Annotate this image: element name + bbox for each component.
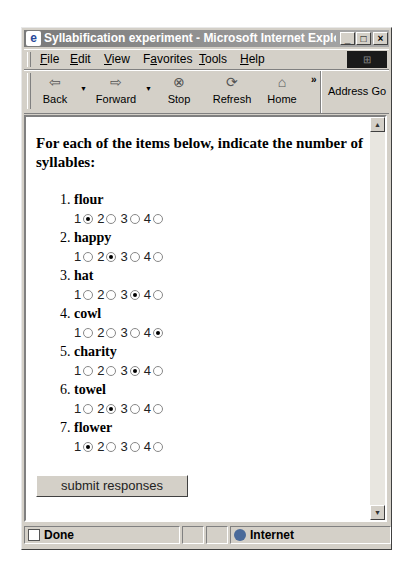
menu-view[interactable]: View [104,52,130,66]
word-label: flower [74,420,112,435]
radio-button[interactable] [83,328,93,338]
radio-button[interactable] [106,290,116,300]
minimize-button[interactable]: _ [340,32,355,45]
menu-help[interactable]: Help [240,52,265,66]
syllable-option[interactable]: 4 [144,399,163,418]
radio-button[interactable] [130,442,140,452]
scroll-down-icon[interactable]: ▼ [370,505,385,520]
word-item: flour1234 [74,190,363,228]
option-number: 2 [97,363,104,378]
radio-button[interactable] [130,252,140,262]
home-button[interactable]: ⌂ Home [262,73,302,105]
radio-button[interactable] [130,214,140,224]
menubar-grip[interactable] [27,52,31,67]
syllable-option[interactable]: 2 [97,323,116,342]
stop-button[interactable]: ⊗ Stop [160,73,198,105]
syllable-option[interactable]: 4 [144,361,163,380]
syllable-option[interactable]: 4 [144,247,163,266]
word-label: charity [74,344,117,359]
word-list: flour1234happy1234hat1234cowl1234charity… [36,190,363,456]
syllable-options: 1234 [74,437,363,456]
syllable-option[interactable]: 2 [97,285,116,304]
radio-button[interactable] [130,404,140,414]
back-button[interactable]: ⇦ Back [38,73,72,105]
radio-button[interactable] [153,404,163,414]
forward-button[interactable]: ⇨ Forward [92,73,140,105]
radio-button[interactable] [153,290,163,300]
toolbar-overflow-chevron-icon[interactable]: » [311,74,317,85]
back-dropdown-icon[interactable]: ▼ [80,85,87,92]
option-number: 4 [144,325,151,340]
syllable-option[interactable]: 3 [120,209,139,228]
syllable-option[interactable]: 4 [144,437,163,456]
syllable-option[interactable]: 1 [74,285,93,304]
syllable-form: For each of the items below, indicate th… [36,134,363,456]
syllable-option[interactable]: 4 [144,209,163,228]
radio-button[interactable] [153,366,163,376]
radio-button[interactable] [83,290,93,300]
radio-button[interactable] [153,252,163,262]
syllable-option[interactable]: 1 [74,209,93,228]
syllable-option[interactable]: 4 [144,323,163,342]
syllable-option[interactable]: 2 [97,209,116,228]
syllable-option[interactable]: 3 [120,323,139,342]
radio-button[interactable] [83,404,93,414]
syllable-option[interactable]: 1 [74,247,93,266]
radio-button[interactable] [106,442,116,452]
radio-button[interactable] [106,404,116,414]
menu-tools[interactable]: Tools [199,52,227,66]
vertical-scrollbar[interactable]: ▲ ▼ [370,117,385,520]
toolbar-grip[interactable] [27,73,31,109]
menu-edit[interactable]: Edit [70,52,91,66]
refresh-button[interactable]: ⟳ Refresh [210,73,254,105]
toolbar: ⇦ Back ▼ ⇨ Forward ▼ ⊗ Stop ⟳ Refresh ⌂ … [24,70,389,114]
option-number: 4 [144,211,151,226]
radio-button[interactable] [106,328,116,338]
forward-dropdown-icon[interactable]: ▼ [145,85,152,92]
syllable-option[interactable]: 4 [144,285,163,304]
menu-favorites[interactable]: Favorites [143,52,192,66]
status-bar: Done Internet [24,525,389,545]
word-label: towel [74,382,106,397]
radio-button[interactable] [153,442,163,452]
syllable-option[interactable]: 3 [120,399,139,418]
word-item: cowl1234 [74,304,363,342]
syllable-option[interactable]: 3 [120,247,139,266]
windows-logo-icon: ⊞ [347,51,387,68]
scroll-up-icon[interactable]: ▲ [370,117,385,132]
syllable-option[interactable]: 1 [74,399,93,418]
syllable-option[interactable]: 3 [120,361,139,380]
syllable-options: 1234 [74,209,363,228]
radio-button[interactable] [153,328,163,338]
title-bar[interactable]: e Syllabification experiment - Microsoft… [24,30,389,47]
radio-button[interactable] [83,442,93,452]
radio-button[interactable] [83,366,93,376]
syllable-option[interactable]: 2 [97,437,116,456]
maximize-button[interactable]: □ [356,32,371,45]
address-bar[interactable]: Address Go [320,71,389,113]
option-number: 3 [120,401,127,416]
close-button[interactable]: × [373,32,388,45]
syllable-option[interactable]: 3 [120,285,139,304]
radio-button[interactable] [130,366,140,376]
syllable-option[interactable]: 1 [74,437,93,456]
radio-button[interactable] [106,252,116,262]
syllable-option[interactable]: 2 [97,247,116,266]
radio-button[interactable] [106,366,116,376]
syllable-option[interactable]: 1 [74,323,93,342]
submit-responses-button[interactable]: submit responses [36,475,188,497]
radio-button[interactable] [130,290,140,300]
radio-button[interactable] [153,214,163,224]
syllable-option[interactable]: 3 [120,437,139,456]
radio-button[interactable] [83,252,93,262]
radio-button[interactable] [106,214,116,224]
option-number: 3 [120,211,127,226]
radio-button[interactable] [130,328,140,338]
syllable-option[interactable]: 1 [74,361,93,380]
syllable-option[interactable]: 2 [97,361,116,380]
security-zone-panel: Internet [230,526,391,544]
menu-file[interactable]: File [40,52,59,66]
radio-button[interactable] [83,214,93,224]
browser-window: e Syllabification experiment - Microsoft… [21,27,392,550]
syllable-option[interactable]: 2 [97,399,116,418]
